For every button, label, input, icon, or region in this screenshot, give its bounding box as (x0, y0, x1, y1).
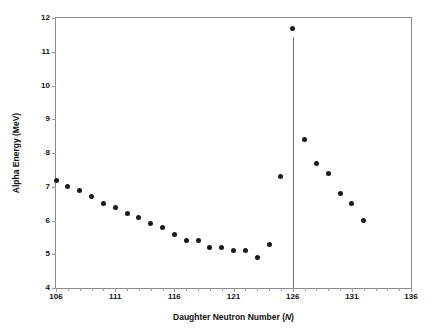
y-axis-tick (52, 187, 56, 188)
y-axis-title: Alpha Energy (MeV) (11, 113, 21, 193)
data-point (255, 255, 260, 260)
x-axis-tick-label: 116 (168, 293, 181, 301)
x-axis-minor-tick (163, 288, 164, 291)
data-point (184, 238, 189, 243)
data-point (219, 245, 224, 250)
data-point (231, 248, 236, 253)
y-axis-tick (52, 52, 56, 53)
data-point (101, 201, 106, 206)
x-axis-minor-tick (68, 288, 69, 291)
x-axis-minor-tick (399, 288, 400, 291)
x-axis-minor-tick (316, 288, 317, 291)
x-axis-minor-tick (269, 288, 270, 291)
x-axis-minor-tick (103, 288, 104, 291)
x-axis-minor-tick (139, 288, 140, 291)
y-axis-tick-label: 9 (46, 115, 50, 123)
y-axis-tick-label: 11 (42, 48, 50, 56)
data-point (207, 245, 212, 250)
x-axis-minor-tick (340, 288, 341, 291)
x-axis-minor-tick (376, 288, 377, 291)
y-axis-tick-label: 7 (46, 183, 50, 191)
x-axis-minor-tick (305, 288, 306, 291)
y-axis-tick (52, 18, 56, 19)
y-axis-tick-label: 5 (46, 250, 50, 258)
y-axis-tick (52, 119, 56, 120)
x-axis-minor-tick (127, 288, 128, 291)
x-axis-minor-tick (281, 288, 282, 291)
x-axis-title: Daughter Neutron Number (N) (55, 312, 412, 322)
y-axis-tick-label: 12 (41, 14, 50, 22)
data-point (54, 178, 59, 183)
data-point (172, 232, 177, 237)
x-axis-minor-tick (364, 288, 365, 291)
data-point (326, 171, 331, 176)
data-point (125, 211, 130, 216)
data-point (136, 215, 141, 220)
plot-area: 456789101112106111116121126131136 (55, 17, 412, 289)
x-axis-minor-tick (186, 288, 187, 291)
alpha-energy-scatter-figure: 456789101112106111116121126131136 Daught… (0, 0, 442, 335)
y-axis-tick-label: 4 (46, 284, 50, 292)
data-point (77, 188, 82, 193)
x-axis-tick-label: 136 (404, 293, 417, 301)
data-point (290, 26, 295, 31)
x-axis-minor-tick (245, 288, 246, 291)
x-axis-tick-label: 106 (49, 293, 62, 301)
data-point (196, 238, 201, 243)
data-point (113, 205, 118, 210)
x-axis-minor-tick (210, 288, 211, 291)
x-axis-minor-tick (151, 288, 152, 291)
x-axis-title-variable: N (285, 312, 291, 322)
y-axis-tick-label: 8 (46, 149, 50, 157)
data-point (302, 137, 307, 142)
x-axis-tick-label: 126 (286, 293, 299, 301)
data-point (148, 221, 153, 226)
y-axis-tick-label: 10 (41, 82, 50, 90)
data-point (243, 248, 248, 253)
data-point (349, 201, 354, 206)
data-point (89, 194, 94, 199)
x-axis-minor-tick (257, 288, 258, 291)
data-point (160, 225, 165, 230)
y-axis-tick-label: 6 (46, 217, 50, 225)
y-axis-tick (52, 221, 56, 222)
data-point (278, 174, 283, 179)
y-axis-tick (52, 153, 56, 154)
data-point (338, 191, 343, 196)
x-axis-minor-tick (80, 288, 81, 291)
data-point (65, 184, 70, 189)
x-axis-minor-tick (387, 288, 388, 291)
magic-number-line (293, 37, 294, 288)
x-axis-tick-label: 121 (227, 293, 240, 301)
x-axis-minor-tick (222, 288, 223, 291)
y-axis-tick (52, 86, 56, 87)
data-point (361, 218, 366, 223)
data-point (267, 242, 272, 247)
x-axis-minor-tick (92, 288, 93, 291)
x-axis-tick-label: 111 (109, 293, 121, 301)
data-point (314, 161, 319, 166)
x-axis-minor-tick (328, 288, 329, 291)
x-axis-minor-tick (198, 288, 199, 291)
y-axis-tick (52, 254, 56, 255)
x-axis-tick-label: 131 (345, 293, 358, 301)
